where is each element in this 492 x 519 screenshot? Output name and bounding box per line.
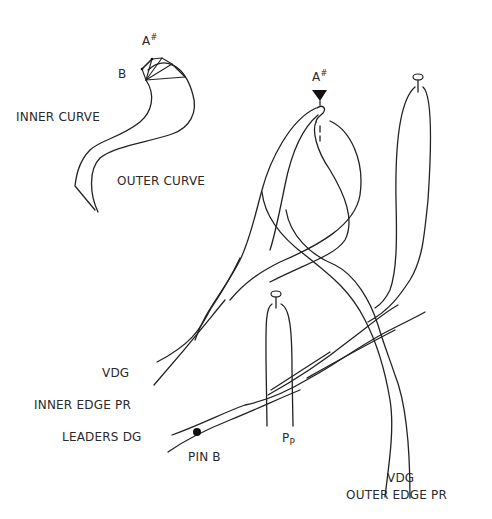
label-inner-edge-pr: INNER EDGE PR — [34, 399, 131, 411]
label-pp: PP — [282, 432, 295, 447]
pin-b-dot — [193, 428, 201, 436]
label-leaders-dg: LEADERS DG — [62, 431, 142, 443]
label-outer-edge-pr: OUTER EDGE PR — [346, 489, 447, 501]
inset-label-outer-curve: OUTER CURVE — [117, 175, 205, 187]
inset-label-b: B — [118, 68, 126, 80]
inset-label-inner-curve: INNER CURVE — [16, 111, 100, 123]
pin-a-sharp-marker — [312, 90, 327, 101]
label-vdg-left: VDG — [102, 367, 129, 379]
inset-label-a-sharp: A# — [142, 34, 157, 47]
label-a-sharp: A# — [312, 70, 327, 83]
label-vdg-right: VDG — [387, 472, 414, 484]
label-pin-b: PIN B — [188, 451, 221, 463]
inset-curve-shape — [75, 58, 194, 212]
